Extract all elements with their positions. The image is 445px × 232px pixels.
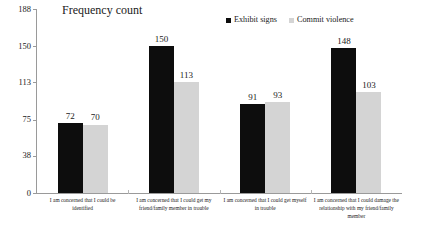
plot-area: 72701501139193148103 bbox=[37, 9, 402, 193]
x-axis-category-separator bbox=[220, 190, 221, 194]
x-axis-category-label-line: I am concerned that I could get myself bbox=[216, 197, 315, 205]
y-axis-tick-label: 113 bbox=[0, 78, 31, 87]
x-axis-category-label-line: in trouble bbox=[216, 205, 315, 213]
y-axis-tick-label: 188 bbox=[0, 5, 31, 14]
x-axis-category-label: I am concerned that I could get myfriend… bbox=[124, 197, 223, 213]
x-axis-category-label: I am concerned that I could beidentified bbox=[33, 197, 132, 213]
bar-exhibit-signs bbox=[58, 123, 83, 193]
bar-chart: Frequency count Exhibit signs Commit vio… bbox=[0, 0, 445, 232]
x-axis-category-separator bbox=[311, 190, 312, 194]
bar-value-label: 93 bbox=[259, 91, 296, 100]
bar-exhibit-signs bbox=[331, 48, 356, 193]
y-axis-tick-label: 150 bbox=[0, 42, 31, 51]
x-axis-category-label-line: identified bbox=[33, 205, 132, 213]
x-axis-category-label-line: I am concerned that I could be bbox=[33, 197, 132, 205]
bar-commit-violence bbox=[174, 82, 199, 193]
y-axis-tick-label: 38 bbox=[0, 151, 31, 160]
bar-commit-violence bbox=[265, 102, 290, 193]
x-axis-category-label-line: I am concerned that I could damage the bbox=[307, 197, 406, 205]
bar-value-label: 150 bbox=[143, 35, 180, 44]
x-axis-category-label-line: I am concerned that I could get my bbox=[124, 197, 223, 205]
bar-exhibit-signs bbox=[149, 46, 174, 193]
x-axis-category-separator bbox=[128, 190, 129, 194]
x-axis-category-label: I am concerned that I could damage there… bbox=[307, 197, 406, 220]
bar-value-label: 70 bbox=[77, 113, 114, 122]
x-axis-category-label: I am concerned that I could get myselfin… bbox=[216, 197, 315, 213]
y-axis-tick-label: 75 bbox=[0, 115, 31, 124]
x-axis-category-label-line: member bbox=[307, 213, 406, 221]
bar-commit-violence bbox=[83, 125, 108, 194]
x-axis-category-label-line: friend/family member in trouble bbox=[124, 205, 223, 213]
y-axis-tick-mark bbox=[33, 193, 37, 194]
bar-value-label: 148 bbox=[325, 37, 362, 46]
bar-value-label: 113 bbox=[168, 71, 205, 80]
x-axis-category-label-line: relationship with my friend/family bbox=[307, 205, 406, 213]
y-axis-tick-label: 0 bbox=[0, 189, 31, 198]
bar-exhibit-signs bbox=[240, 104, 265, 193]
bar-commit-violence bbox=[356, 92, 381, 193]
bar-value-label: 103 bbox=[350, 81, 387, 90]
